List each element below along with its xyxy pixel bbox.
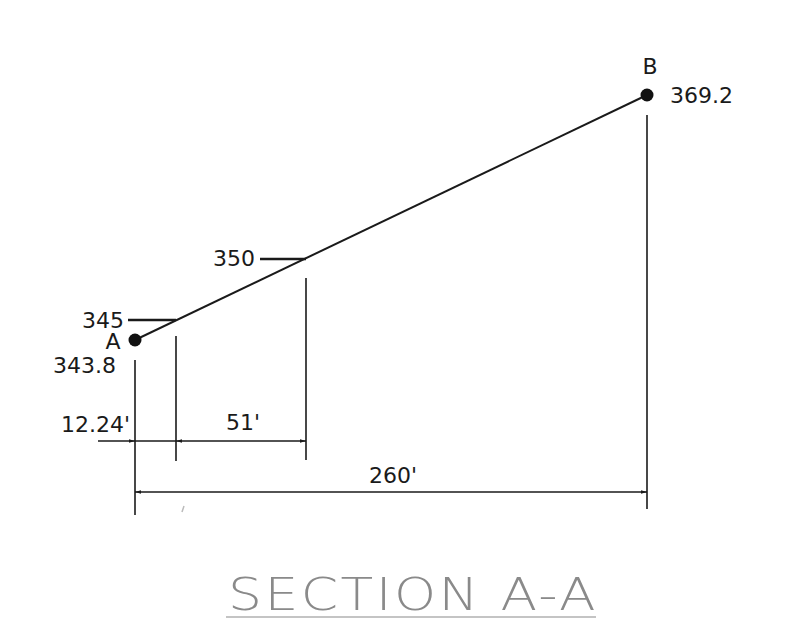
section-drawing: A 343.8 B 369.2 345 350 12.24' 51' 260' … <box>0 0 792 622</box>
point-b-label: B <box>642 54 657 79</box>
contour-350-label: 350 <box>213 246 255 271</box>
point-a-elevation: 343.8 <box>53 353 116 378</box>
point-b-elevation: 369.2 <box>670 83 733 108</box>
point-b-marker <box>641 89 654 102</box>
stray-mark <box>182 506 184 512</box>
dimension-51-label: 51' <box>226 410 260 435</box>
dimension-12-24-label: 12.24' <box>61 412 130 437</box>
contour-345-label: 345 <box>82 308 124 333</box>
point-a-marker <box>129 334 142 347</box>
profile-slope-line <box>135 95 647 340</box>
section-title: SECTION A-A <box>228 569 598 620</box>
dimension-260-label: 260' <box>369 463 417 488</box>
